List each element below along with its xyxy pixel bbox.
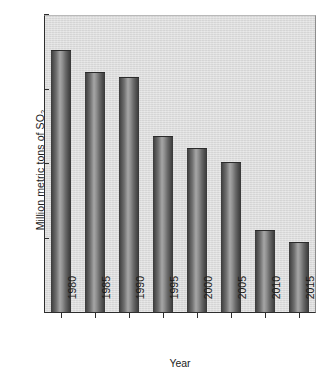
x-tick-mark	[129, 313, 130, 318]
x-tick-mark	[265, 313, 266, 318]
x-tick-label: 2005	[236, 276, 248, 322]
x-tick-label: 1990	[134, 276, 146, 322]
x-tick-label: 1980	[66, 276, 78, 322]
x-tick-mark	[299, 313, 300, 318]
x-tick-label: 1985	[100, 276, 112, 322]
x-tick-label: 2010	[270, 276, 282, 322]
x-tick-label: 2000	[202, 276, 214, 322]
x-tick-mark	[197, 313, 198, 318]
x-tick-mark	[163, 313, 164, 318]
chart-figure: Million metric tons of SO2 05101520 1980…	[0, 0, 332, 375]
x-tick-label: 1995	[168, 276, 180, 322]
bar-series	[44, 15, 316, 313]
x-tick-mark	[95, 313, 96, 318]
bar	[51, 50, 71, 312]
x-tick-mark	[231, 313, 232, 318]
x-tick-mark	[61, 313, 62, 318]
x-tick-label: 2015	[304, 276, 316, 322]
x-axis-title: Year	[44, 357, 316, 369]
